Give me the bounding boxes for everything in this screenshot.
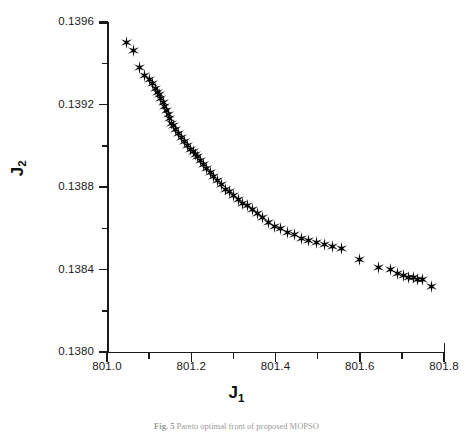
y-axis-tick-label: 0.1380 bbox=[14, 345, 94, 357]
x-axis-title: J1 bbox=[0, 383, 473, 404]
scatter-point bbox=[425, 280, 438, 293]
y-axis-tick-label: 0.1396 bbox=[14, 15, 94, 27]
figure-caption-prefix: Fig. 5 bbox=[154, 421, 174, 431]
figure-caption-text: Pareto optimal front of proposed MOPSO bbox=[177, 421, 319, 431]
x-axis-tick-label: 801.2 bbox=[146, 360, 236, 372]
y-axis-title-text: J bbox=[8, 167, 27, 176]
x-axis-minor-tick bbox=[401, 352, 403, 359]
y-axis-title-subscript: 2 bbox=[16, 160, 28, 166]
scatter-plot-area bbox=[107, 22, 444, 352]
x-axis-tick-label: 801.4 bbox=[231, 360, 321, 372]
x-axis-minor-tick bbox=[233, 352, 235, 359]
x-axis-tick-labels: 801.0801.2801.4801.6801.8 bbox=[0, 360, 473, 380]
x-axis-title-text: J bbox=[229, 383, 238, 402]
scatter-point bbox=[335, 242, 348, 255]
x-axis-tick-label: 801.6 bbox=[315, 360, 405, 372]
x-axis-tick-label: 801.0 bbox=[62, 360, 152, 372]
scatter-point bbox=[353, 253, 366, 266]
figure-caption: Fig. 5 Pareto optimal front of proposed … bbox=[0, 421, 473, 431]
y-axis-tick-label: 0.1384 bbox=[14, 263, 94, 275]
y-axis-title: J2 bbox=[8, 160, 29, 176]
x-axis-minor-tick bbox=[317, 352, 319, 359]
x-axis-title-subscript: 1 bbox=[238, 392, 244, 404]
y-axis-tick-label: 0.1388 bbox=[14, 180, 94, 192]
y-axis-tick-label: 0.1392 bbox=[14, 98, 94, 110]
figure-container: 0.13800.13840.13880.13920.1396 801.0801.… bbox=[0, 0, 473, 435]
x-axis-tick-label: 801.8 bbox=[399, 360, 473, 372]
scatter-point bbox=[127, 44, 140, 57]
x-axis-minor-tick bbox=[148, 352, 150, 359]
